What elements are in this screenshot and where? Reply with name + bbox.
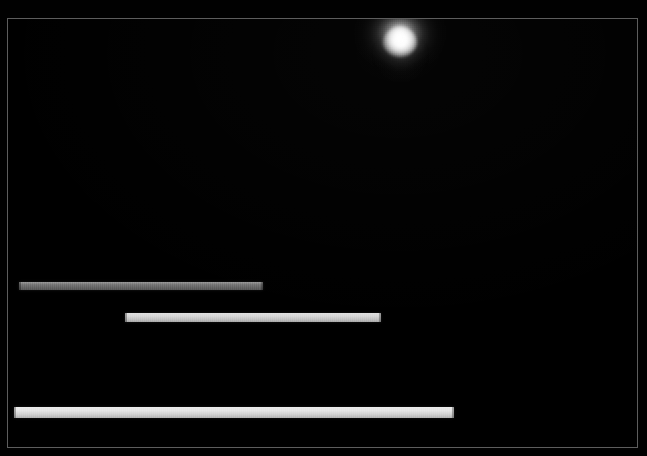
light-bar-2-cap-left	[125, 313, 127, 322]
light-glow-halo-icon	[346, 18, 454, 94]
light-bar-2-cap-right	[379, 313, 381, 322]
light-bar-3	[14, 407, 454, 418]
light-glow-core-icon	[383, 27, 417, 57]
light-bar-2	[125, 313, 381, 322]
light-bar-1-cap-left	[19, 282, 21, 290]
light-source-group	[8, 19, 637, 447]
light-glow-dither-noise	[343, 18, 459, 99]
viewport-border	[7, 18, 638, 448]
light-bar-1-sheen	[19, 282, 263, 290]
light-bar-3-sheen	[14, 407, 454, 418]
light-glow-plume-icon	[374, 39, 426, 101]
scene-canvas	[0, 0, 647, 456]
light-bar-1-grain	[19, 282, 263, 290]
light-bar-2-sheen	[125, 313, 381, 322]
light-bar-1-cap-right	[261, 282, 263, 290]
light-bar-1	[19, 282, 263, 290]
light-bar-3-grain	[14, 407, 454, 418]
light-bar-3-cap-left	[14, 407, 16, 418]
light-bar-3-cap-right	[452, 407, 454, 418]
light-bar-2-grain	[125, 313, 381, 322]
